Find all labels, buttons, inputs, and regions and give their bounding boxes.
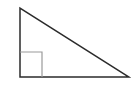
right-triangle-diagram [0, 0, 131, 110]
right-triangle [20, 8, 129, 77]
right-angle-marker [20, 52, 42, 77]
